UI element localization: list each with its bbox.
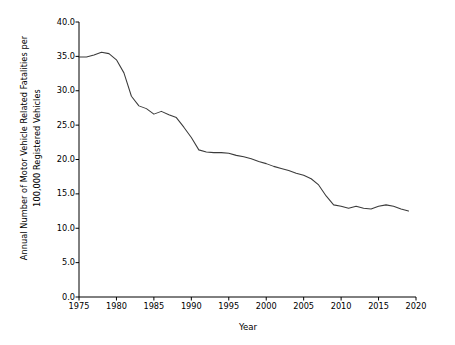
line-plot [0,0,455,345]
data-series-line [79,52,409,211]
chart-container: Annual Number of Motor Vehicle Related F… [0,0,455,345]
x-axis-title: Year [79,322,417,332]
